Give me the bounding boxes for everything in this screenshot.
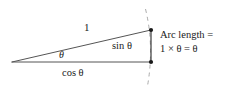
arc-length-annotation-line-2: 1 × θ = θ: [160, 42, 233, 56]
unit-circle-arc-dashed: [146, 9, 151, 86]
right-angle-vertex-dot: [149, 60, 153, 64]
hypotenuse-label: 1: [84, 22, 90, 33]
trigonometry-figure: 1 θ cos θ sin θ Arc length = 1 × θ = θ: [0, 0, 233, 90]
apex-vertex-dot: [149, 28, 153, 32]
angle-theta-label: θ: [59, 50, 64, 60]
arc-length-annotation: Arc length = 1 × θ = θ: [160, 28, 233, 55]
arc-length-annotation-line-1: Arc length =: [160, 28, 233, 42]
adjacent-cos-label: cos θ: [62, 68, 84, 79]
opposite-sin-label: sin θ: [112, 41, 132, 52]
